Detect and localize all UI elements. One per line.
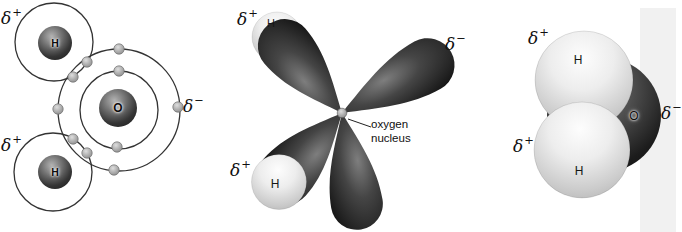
delta-plus-label: δ+ [1,8,22,27]
delta-plus-label: δ+ [1,135,22,154]
plus-sign: + [241,157,251,171]
labels-overlay: δ+ δ+ δ− H O H δ+ δ− δ+ H H oxygen nucle… [0,0,682,232]
delta-symbol: δ [237,9,247,29]
delta-symbol: δ [513,136,523,156]
delta-plus-label: δ+ [513,136,534,155]
minus-sign: − [194,93,204,107]
plus-sign: + [12,5,22,19]
water-polarity-figure: δ+ δ+ δ− H O H δ+ δ− δ+ H H oxygen nucle… [0,0,682,232]
oxygen-nucleus-caption: oxygen nucleus [371,118,411,145]
plus-sign: + [524,133,534,147]
minus-sign: − [672,100,682,114]
caption-line-2: nucleus [371,132,411,146]
hydrogen-label-bottom: H [575,165,584,177]
caption-line-1: oxygen [371,118,411,132]
delta-symbol: δ [1,135,11,155]
plus-sign: + [248,6,258,20]
delta-plus-label: δ+ [230,160,251,179]
delta-minus-label: δ− [445,34,466,53]
hydrogen-label-top: H [267,18,275,29]
delta-symbol: δ [230,160,240,180]
delta-plus-label: δ+ [528,28,549,47]
delta-minus-label: δ− [183,96,204,115]
hydrogen-label-top: H [51,38,59,49]
oxygen-label: O [113,102,122,114]
plus-sign: + [539,25,549,39]
minus-sign: − [456,31,466,45]
delta-symbol: δ [528,28,538,48]
hydrogen-label-bottom: H [271,178,280,190]
hydrogen-label-top: H [574,54,583,66]
oxygen-label: O [629,110,638,122]
hydrogen-label-bottom: H [51,167,59,178]
delta-symbol: δ [445,34,455,54]
delta-symbol: δ [661,103,671,123]
delta-minus-label: δ− [661,103,682,122]
plus-sign: + [12,132,22,146]
delta-symbol: δ [1,8,11,28]
delta-plus-label: δ+ [237,9,258,28]
delta-symbol: δ [183,96,193,116]
